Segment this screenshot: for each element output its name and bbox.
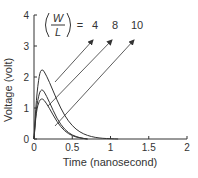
curves xyxy=(34,70,118,139)
y-tick-label: 0 xyxy=(23,134,29,145)
y-axis-label: Voltage (volt) xyxy=(2,58,14,122)
right-paren xyxy=(67,13,71,37)
x-tick-label: 0 xyxy=(31,142,37,153)
x-tick-label: 1 xyxy=(108,142,114,153)
annotation-arrow-1 xyxy=(48,40,112,106)
wl-label-8: 8 xyxy=(112,19,118,31)
wl-label-4: 4 xyxy=(92,19,98,31)
y-tick-label: 2 xyxy=(23,72,29,83)
x-tick-label: 0.5 xyxy=(65,142,79,153)
x-tick-label: 1.5 xyxy=(142,142,156,153)
series-curve-2 xyxy=(34,99,88,139)
fraction-numerator: W xyxy=(53,12,65,24)
annotation-arrow-0 xyxy=(55,40,93,82)
fraction-denominator: L xyxy=(55,26,61,38)
wl-annotation: W L = 4 8 10 xyxy=(46,12,144,38)
chart-svg: 00.511.5201234 Voltage (volt) Time (nano… xyxy=(0,0,198,178)
wl-label-10: 10 xyxy=(131,19,143,31)
y-tick-label: 1 xyxy=(23,103,29,114)
x-tick-label: 2 xyxy=(184,142,190,153)
chart: 00.511.5201234 Voltage (volt) Time (nano… xyxy=(0,0,198,178)
x-axis-label: Time (nanosecond) xyxy=(63,156,157,168)
y-tick-label: 3 xyxy=(23,41,29,52)
annotation-arrows xyxy=(48,40,134,126)
left-paren xyxy=(46,13,50,37)
axes: 00.511.5201234 xyxy=(23,10,190,153)
equals-sign: = xyxy=(77,19,83,31)
y-tick-label: 4 xyxy=(23,10,29,21)
annotation-arrow-2 xyxy=(55,40,134,126)
